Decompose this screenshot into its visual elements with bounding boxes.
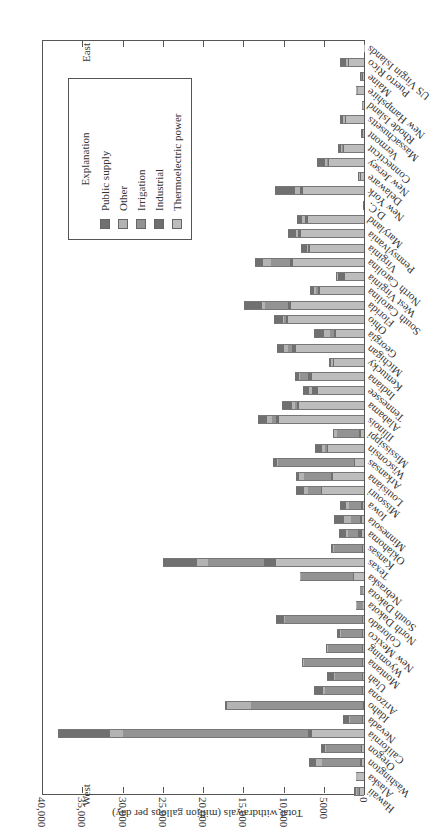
tick-mark	[163, 787, 164, 793]
segment-public-supply	[58, 729, 110, 738]
legend: Explanation Public supply Other Irrigati…	[68, 78, 192, 240]
tick-mark	[324, 787, 325, 793]
bar-maine	[360, 72, 364, 81]
segment-public-supply	[334, 515, 344, 524]
segment-thermoelectric-power	[299, 401, 364, 410]
water-withdrawals-chart: 0500010,00015,00020,00025,00030,00035,00…	[0, 0, 446, 836]
public-supply-swatch	[100, 219, 110, 229]
segment-irrigation	[208, 558, 264, 567]
bar-florida	[244, 301, 364, 310]
bar-new-hampshire	[356, 86, 364, 95]
tick-mark	[123, 787, 124, 793]
segment-irrigation	[251, 701, 364, 710]
bar-delaware	[358, 172, 364, 181]
bar-puerto-rico	[340, 58, 364, 67]
bar-washington	[309, 758, 364, 767]
segment-thermoelectric-power	[301, 229, 364, 238]
segment-public-supply	[315, 444, 322, 453]
tick-mark	[163, 41, 164, 47]
segment-irrigation	[325, 686, 362, 695]
bar-ohio	[274, 315, 364, 324]
bar-utah	[327, 672, 364, 681]
segment-other	[263, 258, 272, 267]
bar-louisiana	[296, 472, 364, 481]
bar-wyoming	[326, 644, 364, 653]
legend-label: Other	[117, 186, 129, 211]
segment-irrigation	[304, 472, 331, 481]
segment-other	[110, 729, 122, 738]
segment-public-supply	[327, 672, 334, 681]
tick-mark	[243, 41, 244, 47]
segment-thermoelectric-power	[296, 344, 364, 353]
segment-thermoelectric-power	[336, 329, 364, 338]
segment-irrigation	[308, 486, 321, 495]
bar-massachusetts	[340, 115, 364, 124]
tick-mark	[42, 41, 43, 47]
segment-thermoelectric-power	[320, 286, 364, 295]
segment-thermoelectric-power	[354, 572, 364, 581]
segment-thermoelectric-power	[360, 787, 364, 796]
legend-item-other: Other	[117, 186, 129, 229]
bar-kentucky	[329, 358, 364, 367]
legend-title: Explanation	[79, 79, 91, 239]
bar-california	[58, 729, 364, 738]
segment-irrigation	[334, 544, 362, 553]
segment-thermoelectric-power	[308, 215, 364, 224]
bar-arkansas	[273, 458, 364, 467]
segment-thermoelectric-power	[291, 301, 364, 310]
segment-thermoelectric-power	[334, 358, 364, 367]
segment-irrigation	[349, 501, 361, 510]
tick-label: 40,000	[36, 797, 48, 827]
segment-thermoelectric-power	[312, 729, 364, 738]
segment-thermoelectric-power	[361, 429, 364, 438]
industrial-swatch	[154, 219, 164, 229]
segment-thermoelectric-power	[344, 144, 364, 153]
segment-thermoelectric-power	[355, 458, 364, 467]
bar-maryland	[297, 215, 364, 224]
bar-oregon	[321, 744, 364, 753]
segment-thermoelectric-power	[346, 115, 364, 124]
segment-industrial	[264, 558, 276, 567]
segment-thermoelectric-power	[318, 386, 364, 395]
bar-new-york	[275, 186, 364, 195]
tick-mark	[364, 787, 365, 793]
segment-irrigation	[300, 372, 308, 381]
segment-irrigation	[326, 744, 361, 753]
segment-irrigation	[328, 644, 363, 653]
bar-indiana	[295, 372, 364, 381]
tick-mark	[324, 41, 325, 47]
bar-kansas	[331, 544, 364, 553]
segment-public-supply	[317, 158, 325, 167]
segment-irrigation	[351, 515, 360, 524]
thermoelectric-swatch	[172, 219, 182, 229]
tick-mark	[42, 787, 43, 793]
segment-irrigation	[301, 572, 353, 581]
segment-public-supply	[274, 315, 283, 324]
segment-public-supply	[275, 186, 295, 195]
legend-item-industrial: Industrial	[153, 169, 165, 229]
bar-missouri	[296, 486, 364, 495]
legend-label: Thermoelectric power	[171, 114, 183, 211]
segment-public-supply	[282, 401, 292, 410]
bar-south-carolina	[310, 286, 364, 295]
segment-public-supply	[255, 258, 262, 267]
bar-nevada	[343, 715, 364, 724]
segment-thermoelectric-power	[312, 372, 364, 381]
tick-mark	[203, 787, 204, 793]
bar-new-mexico	[337, 629, 364, 638]
segment-thermoelectric-power	[310, 244, 364, 253]
segment-public-supply	[314, 686, 323, 695]
bar-north-dakota	[356, 601, 364, 610]
segment-thermoelectric-power	[358, 86, 364, 95]
bar-pennsylvania	[288, 229, 364, 238]
segment-irrigation	[123, 729, 309, 738]
segment-thermoelectric-power	[361, 172, 364, 181]
segment-irrigation	[278, 458, 354, 467]
bar-alaska	[356, 772, 364, 781]
segment-thermoelectric-power	[303, 186, 364, 195]
bar-illinois	[258, 415, 364, 424]
segment-irrigation	[265, 301, 288, 310]
irrigation-swatch	[136, 219, 146, 229]
segment-thermoelectric-power	[328, 444, 364, 453]
segment-irrigation	[271, 258, 290, 267]
